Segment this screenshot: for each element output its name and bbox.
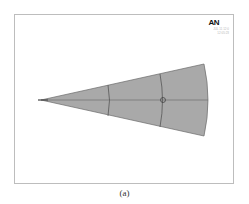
figure-caption: (a) xyxy=(0,188,249,198)
wedge-model xyxy=(0,0,249,204)
